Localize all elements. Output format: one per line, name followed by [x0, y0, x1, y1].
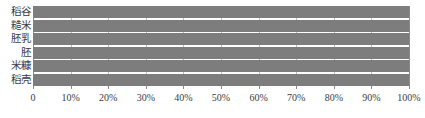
x-axis-tick-label: 100% [397, 91, 420, 105]
y-axis-label-1: 糙米 [0, 20, 33, 32]
y-axis-category-labels: 稻谷 糙米 胚乳 胚 米糠 稻壳 [0, 6, 33, 86]
x-axis-tick-label: 40% [174, 91, 192, 105]
x-axis-tick [334, 86, 335, 89]
bar-1 [33, 20, 409, 32]
x-axis-tick [296, 86, 297, 89]
x-axis-tick-label: 30% [137, 91, 155, 105]
bar-3 [33, 47, 409, 59]
bar-row [33, 20, 410, 32]
x-axis-tick-label: 70% [287, 91, 305, 105]
y-axis-label-4: 米糠 [0, 60, 33, 72]
y-axis-label-3: 胚 [0, 47, 33, 59]
plot-area [33, 6, 410, 86]
y-axis-label-5: 稻壳 [0, 74, 33, 86]
y-axis-label-0: 稻谷 [0, 6, 33, 18]
x-axis-tick-label: 0 [31, 91, 36, 105]
x-axis-tick [371, 86, 372, 89]
bar-0 [33, 6, 409, 18]
x-axis-tick [108, 86, 109, 89]
x-axis-tick-labels: 010%20%30%40%50%60%70%80%90%100% [0, 91, 425, 107]
x-axis-ticks [33, 86, 410, 90]
bar-row [33, 33, 410, 45]
bar-chart: 稻谷 糙米 胚乳 胚 米糠 稻壳 010%20%30%40%50%60%70%8… [0, 0, 425, 118]
bar-row [33, 47, 410, 59]
bar-row [33, 74, 410, 86]
x-axis-tick-label: 90% [362, 91, 380, 105]
x-axis-tick-label: 80% [325, 91, 343, 105]
x-axis-tick-label: 50% [212, 91, 230, 105]
x-axis-tick-label: 60% [249, 91, 267, 105]
y-axis-label-2: 胚乳 [0, 33, 33, 45]
bar-row [33, 6, 410, 18]
x-axis-tick [146, 86, 147, 89]
bar-2 [33, 33, 409, 45]
bar-5 [33, 74, 409, 86]
x-axis-tick [409, 86, 410, 89]
bar-row [33, 60, 410, 72]
x-axis-tick [183, 86, 184, 89]
x-axis-tick-label: 20% [99, 91, 117, 105]
x-axis-tick [259, 86, 260, 89]
bar-series [33, 6, 410, 86]
x-axis-tick [33, 86, 34, 89]
bar-4 [33, 60, 409, 72]
x-axis-tick [221, 86, 222, 89]
x-axis-tick [71, 86, 72, 89]
x-axis-tick-label: 10% [61, 91, 79, 105]
